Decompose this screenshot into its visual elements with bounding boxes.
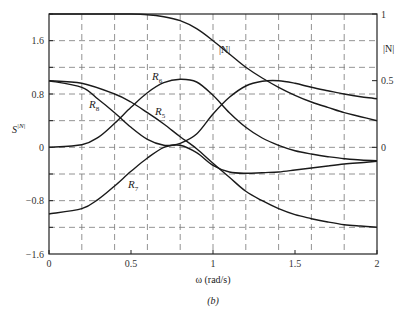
x-tick-label: 1.5	[289, 258, 302, 269]
y-tick-label: −0.8	[26, 195, 44, 206]
grid	[49, 14, 377, 254]
x-tick-label: 0.5	[125, 258, 138, 269]
x-axis-label: ω (rad/s)	[195, 274, 230, 286]
right-tick-label: 0.5	[381, 75, 394, 86]
x-tick-label: 1	[211, 258, 216, 269]
ticks: 00.511.521.60.80−0.8−1.610.50	[26, 9, 394, 270]
y-axis-label: S|N|	[12, 122, 26, 135]
curve-label-N: |N|	[219, 44, 230, 55]
curve-label-R8: R8	[88, 98, 100, 113]
sensitivity-chart: 00.511.521.60.80−0.8−1.610.50 S|N| |N| ω…	[0, 0, 408, 312]
y-tick-label: 0.8	[32, 89, 45, 100]
right-tick-label: 1	[381, 9, 386, 20]
figure-caption: (b)	[207, 295, 219, 307]
right-tick-label: 0	[381, 142, 386, 153]
curve-label-R6: R6	[151, 70, 163, 85]
x-tick-label: 2	[375, 258, 380, 269]
curve-label-R7: R7	[127, 178, 139, 193]
y-tick-label: −1.6	[26, 249, 44, 260]
right-axis-label: |N|	[383, 43, 394, 54]
y-tick-label: 1.6	[32, 35, 45, 46]
y-tick-label: 0	[39, 142, 44, 153]
x-tick-label: 0	[47, 258, 52, 269]
